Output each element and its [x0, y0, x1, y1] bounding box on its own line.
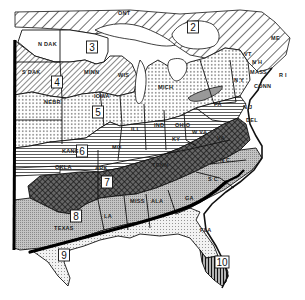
state-label: VT	[244, 51, 252, 57]
state-label: MISS	[130, 198, 145, 204]
zone-number: 9	[61, 250, 67, 261]
state-label: N C	[220, 157, 230, 163]
state-label: IND	[154, 122, 164, 128]
state-label: ME	[271, 35, 280, 41]
state-label: N H	[252, 59, 262, 65]
zone-number: 6	[79, 146, 85, 157]
state-label: IOWA	[94, 93, 110, 99]
state-label: PA	[214, 101, 222, 107]
state-label: KANS	[62, 148, 79, 154]
state-label: LA	[104, 213, 112, 219]
state-label: MINN	[84, 69, 99, 75]
state-label: VA	[217, 135, 225, 141]
zone-9-marker: 9	[59, 249, 70, 261]
zone-2-marker: 2	[188, 21, 199, 33]
state-label: OHIO	[175, 122, 191, 128]
zone-number: 8	[73, 211, 79, 222]
zone-number: 10	[216, 257, 228, 268]
state-label: OKLA	[55, 164, 72, 170]
state-label: S DAK	[22, 69, 41, 75]
state-label: R I	[279, 72, 287, 78]
state-label: CONN	[254, 83, 271, 89]
state-label: MASS	[250, 69, 267, 75]
map-container: 2345678910 N DAKS DAKNEBRMINNWISIOWAMICH…	[0, 0, 305, 300]
zone-number: 5	[95, 107, 101, 118]
zone-number: 2	[190, 22, 196, 33]
state-label: NEBR	[44, 99, 61, 105]
zone-3-marker: 3	[87, 41, 98, 53]
zone-number: 4	[54, 77, 60, 88]
state-label: KY	[172, 136, 180, 142]
state-label: N J	[243, 104, 252, 110]
zone-4-marker: 4	[52, 76, 63, 88]
state-label: MO	[112, 144, 122, 150]
state-label: ALA	[151, 198, 163, 204]
state-label: TEXAS	[54, 225, 74, 231]
state-label: N DAK	[38, 41, 57, 47]
zone-5-marker: 5	[93, 106, 104, 118]
zone-number: 7	[104, 177, 110, 188]
state-label: DEL	[246, 117, 258, 123]
state-label: WIS	[118, 72, 129, 78]
state-label: ILL	[131, 126, 140, 132]
zone-map: 2345678910 N DAKS DAKNEBRMINNWISIOWAMICH…	[0, 0, 305, 300]
state-label: S C	[208, 176, 218, 182]
state-label: GA	[185, 195, 194, 201]
state-label: N Y	[234, 77, 244, 83]
state-label: FLA	[200, 227, 212, 233]
state-label: MICH	[158, 84, 173, 90]
state-label: ARK	[95, 165, 108, 171]
map-western-edge	[14, 40, 15, 250]
state-label: W VA	[192, 129, 207, 135]
zone-number: 3	[89, 42, 95, 53]
zone-8-marker: 8	[71, 210, 82, 222]
state-label: TENN	[152, 162, 168, 168]
zone-7-marker: 7	[102, 176, 113, 188]
zone-10-marker: 10	[215, 256, 229, 268]
state-label: ONT	[118, 10, 131, 16]
